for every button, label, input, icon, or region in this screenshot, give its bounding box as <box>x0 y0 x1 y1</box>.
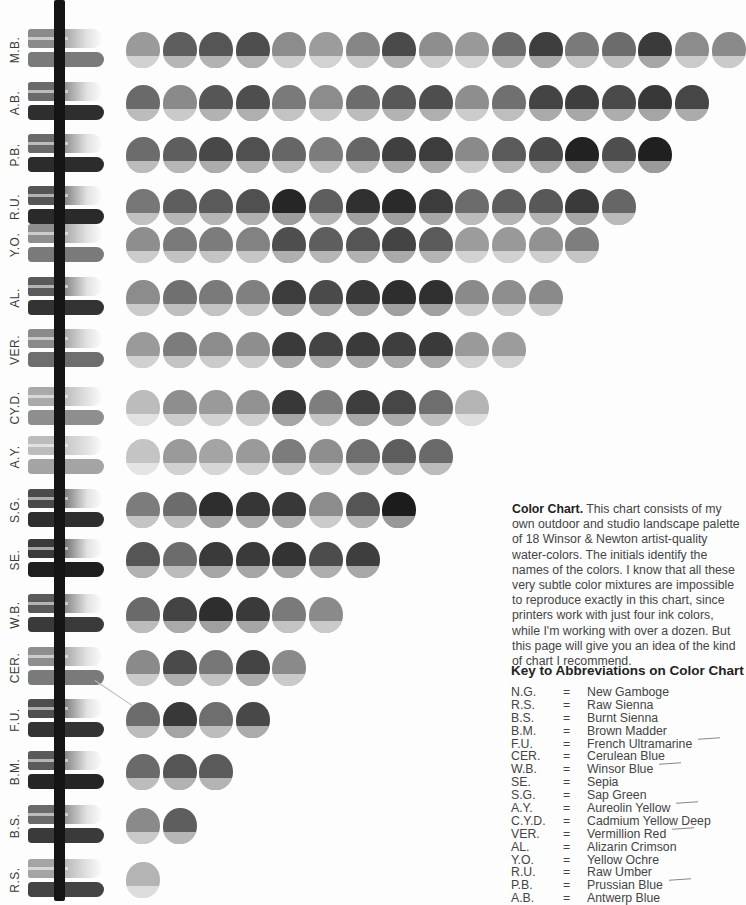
key-item: AL.=Alizarin Crimson <box>511 841 720 854</box>
color-dot <box>163 332 197 368</box>
color-dot <box>346 227 380 263</box>
color-dot <box>163 439 197 475</box>
color-dot <box>346 85 380 121</box>
color-dot <box>382 32 416 68</box>
color-dot <box>163 137 197 173</box>
color-dot <box>272 32 306 68</box>
color-dot <box>309 137 343 173</box>
color-dot <box>492 85 526 121</box>
color-dot <box>675 32 709 68</box>
color-dot <box>309 189 343 225</box>
color-dot <box>126 650 160 686</box>
color-dot <box>346 542 380 578</box>
color-dot <box>455 85 489 121</box>
wash-swatch <box>28 329 102 348</box>
key-equals: = <box>563 828 587 841</box>
color-dot <box>199 280 233 316</box>
key-equals: = <box>563 841 587 854</box>
color-dot <box>602 85 636 121</box>
color-dot <box>382 439 416 475</box>
color-dot <box>272 542 306 578</box>
solid-swatch <box>28 670 104 685</box>
wash-swatch <box>28 29 102 48</box>
color-dot <box>126 332 160 368</box>
color-dot <box>126 439 160 475</box>
color-dot <box>492 280 526 316</box>
key-equals: = <box>563 686 587 699</box>
color-dot <box>346 390 380 426</box>
color-dot <box>492 332 526 368</box>
color-dot <box>382 280 416 316</box>
label-strip: R.S.B.S.B.M.F.U.CER.W.B.SE.S.G.A.Y.CY.D.… <box>0 0 110 901</box>
solid-swatch <box>28 562 104 577</box>
row-label-text: M.B. <box>8 37 22 64</box>
color-dot <box>382 227 416 263</box>
color-dot <box>309 332 343 368</box>
color-dot <box>602 189 636 225</box>
row-label: A.Y. <box>4 432 26 482</box>
pencil-check-mark <box>698 737 720 740</box>
color-dot <box>126 702 160 738</box>
pencil-check-mark <box>676 801 698 804</box>
color-dot <box>346 137 380 173</box>
row-label: F.U. <box>4 695 26 745</box>
color-dot <box>163 597 197 633</box>
color-dot <box>272 650 306 686</box>
color-dot <box>529 227 563 263</box>
color-dot <box>382 390 416 426</box>
color-dot <box>199 32 233 68</box>
color-dot <box>602 137 636 173</box>
color-dot <box>565 189 599 225</box>
row-label: B.M. <box>4 747 26 797</box>
color-dot <box>346 189 380 225</box>
color-dot <box>492 32 526 68</box>
color-dot <box>565 32 599 68</box>
key-item: VER.=Vermillion Red <box>511 828 720 841</box>
key-abbr: A.Y. <box>511 802 563 815</box>
color-dot <box>309 542 343 578</box>
color-dot <box>565 85 599 121</box>
color-dot <box>272 137 306 173</box>
wash-swatch <box>28 647 102 666</box>
key-item: B.M.=Brown Madder <box>511 725 720 738</box>
color-dot <box>638 137 672 173</box>
row-label-text: R.U. <box>8 194 22 220</box>
wash-swatch <box>28 539 102 558</box>
key-item: A.Y.=Aureolin Yellow <box>511 802 720 815</box>
color-dot <box>126 492 160 528</box>
color-dot <box>272 332 306 368</box>
color-dot <box>419 439 453 475</box>
color-dot <box>126 85 160 121</box>
color-dot <box>199 332 233 368</box>
solid-swatch <box>28 459 104 474</box>
key-abbr: A.B. <box>511 892 563 905</box>
color-dot <box>199 137 233 173</box>
solid-swatch <box>28 157 104 172</box>
row-label: S.G. <box>4 485 26 535</box>
key-title: Key to Abbreviations on Color Chart <box>511 663 744 678</box>
row-label: B.S. <box>4 801 26 851</box>
color-dot <box>602 32 636 68</box>
color-dot <box>638 32 672 68</box>
color-dot <box>163 650 197 686</box>
color-dot <box>163 754 197 790</box>
color-dot <box>126 597 160 633</box>
key-equals: = <box>563 802 587 815</box>
color-dot <box>382 85 416 121</box>
vertical-black-bar <box>54 0 65 901</box>
color-dot <box>455 390 489 426</box>
color-dot <box>346 332 380 368</box>
color-dot <box>272 597 306 633</box>
color-dot <box>529 32 563 68</box>
key-item: C.Y.D.=Cadmium Yellow Deep <box>511 815 720 828</box>
color-dot <box>492 137 526 173</box>
color-dot <box>199 542 233 578</box>
color-dot <box>309 492 343 528</box>
color-dot <box>382 137 416 173</box>
color-dot <box>236 390 270 426</box>
key-abbr: AL. <box>511 841 563 854</box>
color-dot <box>126 390 160 426</box>
color-dot <box>236 85 270 121</box>
color-dot <box>272 85 306 121</box>
row-label-text: P.B. <box>8 143 22 166</box>
